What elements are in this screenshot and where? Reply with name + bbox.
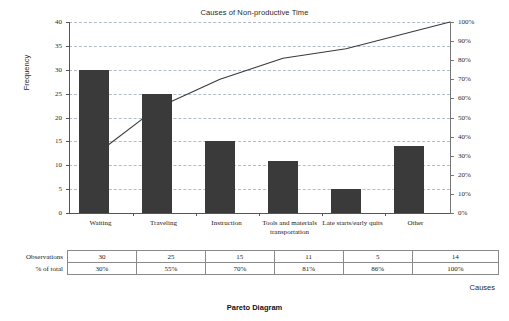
y-tick-label: 15 — [38, 137, 62, 145]
secondary-y-tick-mark — [450, 194, 454, 195]
y-tick-mark — [66, 94, 69, 95]
table-cell: 100% — [412, 263, 498, 275]
x-category-label-waiting: Waiting — [69, 219, 132, 228]
secondary-y-tick-label: 90% — [458, 37, 488, 45]
bar-other — [394, 146, 424, 213]
bar-traveling — [142, 94, 172, 213]
y-tick-mark — [66, 70, 69, 71]
table-cell: 30 — [68, 251, 137, 263]
table-row-label: % of total — [5, 263, 68, 275]
x-category-label-traveling: Traveling — [132, 219, 195, 228]
secondary-y-tick-mark — [450, 118, 454, 119]
table-cell: 55% — [136, 263, 205, 275]
y-tick-label: 10 — [38, 161, 62, 169]
x-tick-mark — [322, 213, 323, 216]
table-row-observations: Observations 30 25 15 11 5 14 — [5, 251, 499, 263]
y-tick-mark — [66, 189, 69, 190]
secondary-y-tick-label: 10% — [458, 190, 488, 198]
x-tick-mark — [259, 213, 260, 216]
table-cell: 86% — [343, 263, 412, 275]
x-axis-label: Causes — [470, 283, 495, 292]
pareto-diagram-figure: Causes of Non-productive Time Frequency … — [0, 0, 509, 321]
table-cell: 15 — [205, 251, 274, 263]
secondary-y-tick-label: 70% — [458, 75, 488, 83]
secondary-y-tick-label: 50% — [458, 114, 488, 122]
y-tick-label: 30 — [38, 66, 62, 74]
x-category-label-instruction: Instruction — [195, 219, 258, 228]
y-tick-label: 0 — [38, 209, 62, 217]
bar-instruction — [205, 141, 235, 213]
table-cell: 81% — [274, 263, 343, 275]
x-category-label-late-starts-early-quits: Late starts/early quits — [321, 219, 384, 228]
secondary-y-tick-mark — [450, 137, 454, 138]
y-tick-mark — [66, 165, 69, 166]
y-tick-label: 25 — [38, 90, 62, 98]
secondary-y-tick-label: 0% — [458, 209, 488, 217]
secondary-y-tick-mark — [450, 156, 454, 157]
x-tick-mark — [196, 213, 197, 216]
y-tick-label: 40 — [38, 18, 62, 26]
x-category-label-other: Other — [384, 219, 447, 228]
y-tick-mark — [66, 46, 69, 47]
y-tick-mark — [66, 213, 69, 214]
table-cell: 5 — [343, 251, 412, 263]
table-cell: 11 — [274, 251, 343, 263]
y-tick-mark — [66, 22, 69, 23]
chart-title: Causes of Non-productive Time — [0, 8, 509, 17]
secondary-y-tick-mark — [450, 22, 454, 23]
table-cell: 70% — [205, 263, 274, 275]
bar-waiting — [79, 70, 109, 213]
x-tick-mark — [385, 213, 386, 216]
x-category-label-tools-and-materials-transportation: Tools and materials transportation — [258, 219, 321, 236]
secondary-y-tick-label: 80% — [458, 56, 488, 64]
bar-tools-and-materials-transportation — [268, 161, 298, 214]
table-cell: 14 — [412, 251, 498, 263]
secondary-y-tick-label: 30% — [458, 152, 488, 160]
y-tick-mark — [66, 118, 69, 119]
table-row-label: Observations — [5, 251, 68, 263]
y-tick-label: 5 — [38, 185, 62, 193]
y-tick-label: 20 — [38, 114, 62, 122]
y-axis-label: Frequency — [22, 38, 31, 108]
secondary-y-tick-mark — [450, 41, 454, 42]
bar-late-starts-early-quits — [331, 189, 361, 213]
data-table: Observations 30 25 15 11 5 14 % of total… — [5, 250, 499, 275]
y-tick-mark — [66, 141, 69, 142]
secondary-y-tick-label: 100% — [458, 18, 488, 26]
y-tick-label: 35 — [38, 42, 62, 50]
secondary-y-tick-mark — [450, 60, 454, 61]
secondary-y-tick-mark — [450, 213, 454, 214]
figure-caption: Pareto Diagram — [0, 303, 509, 312]
table-cell: 30% — [68, 263, 137, 275]
secondary-y-tick-mark — [450, 175, 454, 176]
secondary-y-tick-label: 40% — [458, 133, 488, 141]
secondary-y-tick-label: 60% — [458, 94, 488, 102]
secondary-y-tick-mark — [450, 79, 454, 80]
x-tick-mark — [133, 213, 134, 216]
table-row-percent-of-total: % of total 30% 55% 70% 81% 86% 100% — [5, 263, 499, 275]
secondary-y-tick-label: 20% — [458, 171, 488, 179]
table-cell: 25 — [136, 251, 205, 263]
secondary-y-tick-mark — [450, 98, 454, 99]
